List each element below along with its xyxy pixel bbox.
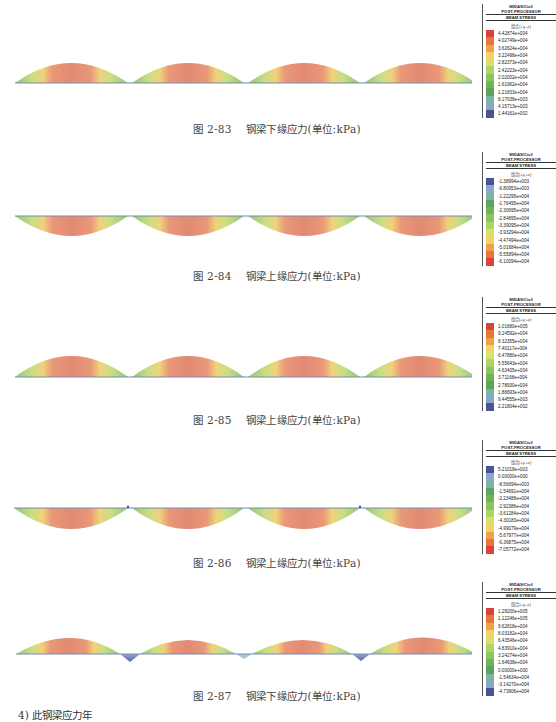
legend-entry: -5.55894e+004 — [486, 251, 556, 258]
legend-scale: 1.01680e+0059.24592e+0048.32355e+0047.40… — [486, 323, 556, 411]
legend-color-swatch — [486, 688, 494, 695]
stress-legend: MIDAS/Civil POST-PROCESSOR BEAM STRESS 组… — [482, 297, 556, 411]
legend-entry: -7.05772e+004 — [486, 546, 556, 553]
legend-entry: -4.30183e+004 — [486, 517, 556, 524]
legend-value: -2.30695e+004 — [498, 208, 529, 213]
legend-entry: 4.63405e+004 — [486, 367, 556, 374]
legend-entry: -4.99079e+004 — [486, 524, 556, 531]
legend-color-swatch — [486, 546, 494, 553]
caption-text: 钢梁下缘应力(单位:kPa) — [246, 123, 361, 135]
legend-scale: 5.21018e+0030.00000e+000-8.56694e+003-1.… — [486, 466, 556, 554]
legend-entry: -3.93294e+004 — [486, 229, 556, 236]
legend-entry: -3.14270e+004 — [486, 681, 556, 688]
legend-value: 1.64638e+004 — [498, 660, 528, 665]
legend-entry: -6.36875e+004 — [486, 539, 556, 546]
legend-entry: 4.15713e+003 — [486, 103, 556, 110]
legend-value: 4.83910e+004 — [498, 646, 528, 651]
caption-text: 钢梁上缘应力(单位:kPa) — [246, 557, 361, 569]
legend-entry: 9.62818e+004 — [486, 623, 556, 630]
legend-color-swatch — [486, 502, 494, 509]
legend-color-swatch — [486, 623, 494, 630]
figure-caption: 图 2-83钢梁下缘应力(单位:kPa) — [0, 121, 554, 136]
legend-color-swatch — [486, 193, 494, 200]
legend-entry: 2.21804e+002 — [486, 403, 556, 410]
legend-value: -4.47494e+004 — [498, 238, 529, 243]
legend-entry: 3.22498e+004 — [486, 52, 556, 59]
legend-combination: 组合(+y,+z) — [486, 316, 556, 322]
legend-value: -1.54634e+004 — [498, 675, 529, 680]
legend-entry: -1.54634e+004 — [486, 674, 556, 681]
legend-value: 4.63405e+004 — [498, 368, 528, 373]
legend-scale: -1.38994e+003-6.80953e+003-1.22295e+004-… — [486, 178, 556, 266]
legend-entry: 1.86693e+004 — [486, 389, 556, 396]
legend-color-swatch — [486, 666, 494, 673]
legend-entry: -2.92386e+004 — [486, 502, 556, 509]
legend-value: 9.24592e+004 — [498, 331, 528, 336]
stress-legend: MIDAS/Civil POST-PROCESSOR BEAM STRESS 组… — [482, 582, 556, 696]
legend-value: 4.15713e+003 — [498, 104, 528, 109]
legend-value: -4.30183e+004 — [498, 518, 529, 523]
legend-entry: -6.80953e+003 — [486, 185, 556, 192]
legend-value: 1.86693e+004 — [498, 390, 528, 395]
legend-entry: -6.10094e+004 — [486, 258, 556, 265]
beam-stress-plot — [10, 45, 472, 90]
legend-color-swatch — [486, 403, 494, 410]
figure-caption: 图 2-85钢梁上缘应力(单位:kPa) — [0, 412, 554, 427]
legend-color-swatch — [486, 30, 494, 37]
legend-value: -7.05772e+004 — [498, 547, 529, 552]
legend-entry: 3.71168e+004 — [486, 374, 556, 381]
legend-color-swatch — [486, 488, 494, 495]
legend-value: -2.84895e+004 — [498, 216, 529, 221]
legend-color-swatch — [486, 652, 494, 659]
legend-entry: 2.78930e+004 — [486, 381, 556, 388]
legend-color-swatch — [486, 88, 494, 95]
legend-color-swatch — [486, 389, 494, 396]
legend-value: -3.39095e+004 — [498, 223, 529, 228]
legend-entry: -2.23488e+004 — [486, 495, 556, 502]
legend-color-swatch — [486, 338, 494, 345]
legend-color-swatch — [486, 229, 494, 236]
legend-color-swatch — [486, 630, 494, 637]
legend-scale: 1.28200e+0051.12246e+0059.62818e+0048.03… — [486, 608, 556, 696]
legend-value: 2.42223e+004 — [498, 68, 528, 73]
legend-entry: 8.03182e+004 — [486, 630, 556, 637]
legend-result-type: BEAM STRESS — [486, 451, 556, 457]
legend-entry: 1.61962e+004 — [486, 81, 556, 88]
legend-entry: 0.00000e+000 — [486, 666, 556, 673]
stress-diagram — [10, 212, 472, 257]
legend-value: 5.55643e+004 — [498, 361, 528, 366]
legend-color-swatch — [486, 81, 494, 88]
legend-color-swatch — [486, 510, 494, 517]
legend-entry: 1.44161e+002 — [486, 110, 556, 117]
legend-color-swatch — [486, 381, 494, 388]
legend-value: -6.36875e+004 — [498, 540, 529, 545]
legend-entry: -1.54691e+004 — [486, 488, 556, 495]
legend-entry: 1.64638e+004 — [486, 659, 556, 666]
legend-entry: 3.24274e+004 — [486, 652, 556, 659]
legend-value: 8.17038e+003 — [498, 97, 528, 102]
legend-color-swatch — [486, 45, 494, 52]
beam-stress-plot — [10, 505, 472, 550]
legend-value: -4.73906e+004 — [498, 689, 529, 694]
legend-value: -5.55894e+004 — [498, 252, 529, 257]
legend-value: 6.47880e+004 — [498, 353, 528, 358]
legend-entry: -4.47494e+004 — [486, 236, 556, 243]
legend-entry: 9.44555e+003 — [486, 396, 556, 403]
legend-value: 1.44161e+002 — [498, 111, 528, 116]
legend-result-type: BEAM STRESS — [486, 163, 556, 169]
legend-entry: 6.47880e+004 — [486, 352, 556, 359]
figure-2-87: 图 2-87钢梁下缘应力(单位:kPa) MIDAS/Civil POST-PR… — [0, 570, 554, 710]
beam-stress-plot — [10, 628, 472, 668]
legend-color-swatch — [486, 214, 494, 221]
legend-value: 5.21018e+003 — [498, 467, 528, 472]
stress-diagram — [10, 337, 472, 382]
beam-stress-plot — [10, 337, 472, 382]
legend-value: -1.22295e+004 — [498, 194, 529, 199]
legend-scale: 4.42874e+0044.02749e+0043.62624e+0043.22… — [486, 30, 556, 118]
legend-entry: -1.22295e+004 — [486, 193, 556, 200]
legend-entry: 1.28200e+005 — [486, 608, 556, 615]
legend-color-swatch — [486, 185, 494, 192]
legend-entry: 1.01680e+005 — [486, 323, 556, 330]
legend-entry: -3.61284e+004 — [486, 510, 556, 517]
legend-entry: -3.39095e+004 — [486, 222, 556, 229]
